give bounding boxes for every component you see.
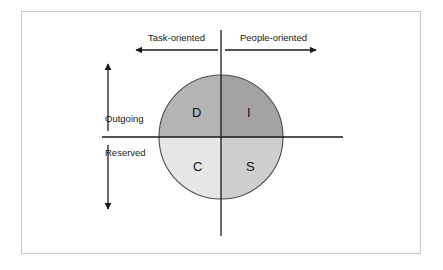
reserved-label: Reserved <box>105 148 146 158</box>
outgoing-label: Outgoing <box>105 114 144 124</box>
task-oriented-label: Task-oriented <box>148 33 205 43</box>
diagram-canvas <box>0 0 443 270</box>
disc-diagram: Task-oriented People-oriented Outgoing R… <box>0 0 443 270</box>
quadrant-letter-c: C <box>193 160 202 173</box>
quadrant-letter-s: S <box>246 160 255 173</box>
quadrant-letter-i: I <box>247 106 251 119</box>
people-oriented-label: People-oriented <box>240 33 307 43</box>
quadrant-letter-d: D <box>192 106 201 119</box>
